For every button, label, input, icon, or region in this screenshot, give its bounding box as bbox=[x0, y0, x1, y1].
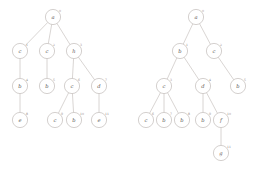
node-label: c bbox=[46, 48, 49, 54]
node-index-superscript: 9 bbox=[61, 112, 63, 116]
tree-edge bbox=[218, 57, 233, 79]
node-index-superscript: 0 bbox=[59, 9, 61, 13]
tree-edge bbox=[150, 93, 161, 114]
tree-node[interactable]: b9 bbox=[195, 112, 211, 128]
tree-edge bbox=[78, 57, 94, 80]
tree-node[interactable]: c2 bbox=[39, 43, 55, 59]
nodes-group: a0c1c2h3b4b5c6d7e8c9b10e11a0b1c2c3d4b5c6… bbox=[12, 9, 246, 161]
tree-node[interactable]: b4 bbox=[12, 78, 28, 94]
node-index-superscript: 4 bbox=[26, 78, 28, 82]
node-index-superscript: 11 bbox=[227, 145, 231, 149]
node-label: c bbox=[213, 48, 216, 54]
node-index-superscript: 0 bbox=[202, 9, 204, 13]
node-index-superscript: 3 bbox=[80, 43, 82, 47]
node-label: a bbox=[194, 14, 197, 20]
node-index-superscript: 8 bbox=[188, 112, 190, 116]
node-label: b bbox=[201, 117, 204, 123]
node-index-superscript: 9 bbox=[209, 112, 211, 116]
node-index-superscript: 6 bbox=[78, 78, 80, 82]
tree-node[interactable]: d4 bbox=[195, 78, 211, 94]
tree-edge bbox=[207, 93, 218, 114]
node-index-superscript: 4 bbox=[209, 78, 211, 82]
node-label: b bbox=[180, 117, 183, 123]
tree-node[interactable]: c6 bbox=[138, 112, 154, 128]
tree-node[interactable]: g11 bbox=[213, 145, 231, 161]
tree-node[interactable]: c1 bbox=[12, 43, 28, 59]
tree-node[interactable]: a0 bbox=[45, 9, 61, 25]
tree-edge bbox=[184, 57, 199, 79]
node-label: b bbox=[72, 117, 75, 123]
tree-node[interactable]: b5 bbox=[230, 78, 246, 94]
tree-node[interactable]: c3 bbox=[156, 78, 172, 94]
tree-node[interactable]: e8 bbox=[12, 112, 28, 128]
tree-node[interactable]: h3 bbox=[66, 43, 82, 59]
tree-node[interactable]: b8 bbox=[174, 112, 190, 128]
node-index-superscript: 1 bbox=[186, 43, 188, 47]
tree-node[interactable]: b1 bbox=[172, 43, 188, 59]
tree-diagram-svg: a0c1c2h3b4b5c6d7e8c9b10e11a0b1c2c3d4b5c6… bbox=[0, 0, 254, 170]
tree-node[interactable]: b7 bbox=[156, 112, 172, 128]
node-index-superscript: 10 bbox=[80, 112, 84, 116]
tree-edge bbox=[200, 24, 211, 45]
node-index-superscript: 5 bbox=[53, 78, 55, 82]
diagram-canvas: a0c1c2h3b4b5c6d7e8c9b10e11a0b1c2c3d4b5c6… bbox=[0, 0, 254, 170]
tree-edge bbox=[25, 22, 47, 45]
tree-node[interactable]: e11 bbox=[91, 112, 109, 128]
tree-edge bbox=[183, 24, 193, 44]
node-label: a bbox=[51, 14, 54, 20]
tree-node[interactable]: a0 bbox=[188, 9, 204, 25]
node-index-superscript: 3 bbox=[170, 78, 172, 82]
node-label: c bbox=[19, 48, 22, 54]
tree-node[interactable]: c6 bbox=[64, 78, 80, 94]
node-label: b bbox=[178, 48, 181, 54]
tree-node[interactable]: f10 bbox=[213, 112, 231, 128]
node-label: c bbox=[163, 83, 166, 89]
tree-edge bbox=[57, 23, 70, 44]
node-label: e bbox=[18, 117, 21, 123]
tree-node[interactable]: d7 bbox=[91, 78, 107, 94]
tree-node[interactable]: b5 bbox=[39, 78, 55, 94]
node-index-superscript: 10 bbox=[227, 112, 231, 116]
tree-edge bbox=[48, 24, 51, 43]
node-label: b bbox=[18, 83, 21, 89]
node-label: b bbox=[162, 117, 165, 123]
node-index-superscript: 2 bbox=[220, 43, 222, 47]
node-label: c bbox=[54, 117, 57, 123]
node-index-superscript: 5 bbox=[244, 78, 246, 82]
node-label: e bbox=[97, 117, 100, 123]
node-index-superscript: 8 bbox=[26, 112, 28, 116]
node-index-superscript: 1 bbox=[26, 43, 28, 47]
node-label: c bbox=[145, 117, 148, 123]
tree-edge bbox=[58, 93, 68, 113]
node-index-superscript: 7 bbox=[170, 112, 172, 116]
node-index-superscript: 6 bbox=[152, 112, 154, 116]
tree-edge bbox=[167, 58, 177, 79]
node-index-superscript: 11 bbox=[105, 112, 109, 116]
tree-edge bbox=[72, 59, 73, 79]
node-index-superscript: 7 bbox=[105, 78, 107, 82]
tree-edge bbox=[72, 94, 73, 113]
tree-node[interactable]: b10 bbox=[66, 112, 84, 128]
tree-node[interactable]: c9 bbox=[47, 112, 63, 128]
node-label: b bbox=[236, 83, 239, 89]
tree-edge bbox=[168, 93, 179, 114]
node-index-superscript: 2 bbox=[53, 43, 55, 47]
tree-node[interactable]: c2 bbox=[206, 43, 222, 59]
node-label: c bbox=[71, 83, 74, 89]
node-label: b bbox=[45, 83, 48, 89]
node-label: h bbox=[72, 48, 75, 54]
